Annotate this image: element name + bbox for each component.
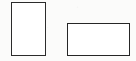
- portrait-rectangle: [11, 2, 46, 56]
- landscape-rectangle: [67, 23, 130, 56]
- figure-canvas: [0, 0, 136, 61]
